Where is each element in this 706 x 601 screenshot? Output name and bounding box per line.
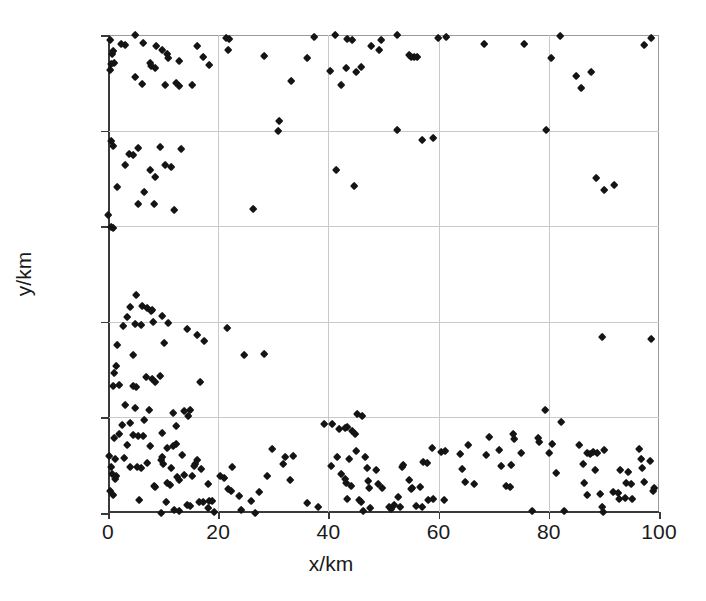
x-axis-title-text: x/km [309,552,353,575]
y-axis-title: y/km [12,252,36,296]
y-tick-labels: 020406080100 [0,0,706,601]
x-axis-title: x/km [0,552,706,576]
scatter-plot-figure: 020406080100 020406080100 x/km y/km [0,0,706,601]
